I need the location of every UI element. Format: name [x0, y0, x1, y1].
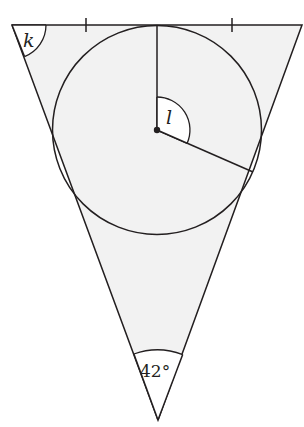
- label-l: l: [166, 106, 172, 128]
- triangle-incircle-diagram: k l 42°: [0, 0, 304, 427]
- diagram-canvas: k l 42°: [0, 0, 304, 427]
- label-apex-angle: 42°: [140, 361, 170, 381]
- label-k: k: [23, 29, 35, 51]
- center-point: [154, 127, 160, 133]
